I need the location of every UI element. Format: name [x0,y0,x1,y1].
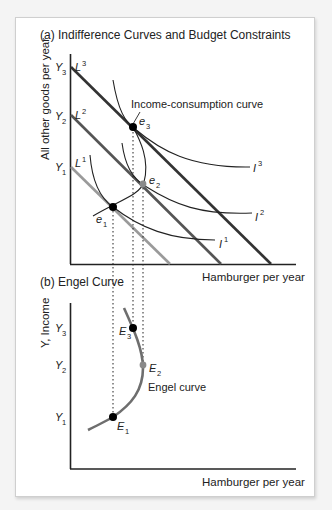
E1-label: E 1 [117,420,129,436]
panel-a-ylabel: All other goods per year [39,38,51,160]
panel-b-y1-label: Y 1 [55,411,66,427]
point-E1 [109,413,117,421]
l1-label: L 1 [75,155,86,169]
svg-text:e: e [139,115,145,127]
svg-text:2: 2 [82,107,86,116]
income-consumption-curve [93,127,146,216]
e2-label: e 2 [149,174,160,190]
point-e3 [129,123,137,131]
e1-label: e 1 [96,213,107,229]
panel-b-y3-label: Y 3 [55,322,66,338]
svg-text:2: 2 [156,181,160,190]
panel-b-ylabel: Y, Income [39,298,51,348]
svg-text:e: e [149,174,155,186]
svg-text:I: I [219,238,222,250]
panel-a-xlabel: Hamburger per year [202,271,305,283]
icc-label: Income-consumption curve [131,98,263,110]
panel-a-y3-label: Y 3 [55,61,66,77]
svg-text:E: E [117,420,125,432]
i2-label: I 2 [255,208,264,223]
svg-text:1: 1 [224,235,228,244]
svg-text:3: 3 [62,68,66,77]
svg-text:E: E [119,325,127,337]
e3-label: e 3 [139,115,150,131]
point-E2 [140,362,147,369]
svg-text:1: 1 [62,168,66,177]
svg-text:e: e [96,213,102,225]
svg-text:L: L [75,109,81,121]
svg-text:2: 2 [157,369,161,378]
svg-text:2: 2 [260,208,264,217]
svg-text:I: I [255,211,258,223]
svg-text:3: 3 [62,329,66,338]
point-e1 [109,203,117,211]
svg-text:E: E [149,362,157,374]
svg-text:1: 1 [103,220,107,229]
panel-a-y1-label: Y 1 [55,161,66,177]
svg-text:3: 3 [146,122,150,131]
svg-text:2: 2 [62,117,66,126]
panel-b-xlabel: Hamburger per year [202,476,305,488]
engel-curve-label: Engel curve [148,381,206,393]
point-e2 [140,181,147,188]
point-E3 [129,324,137,332]
indifference-curve-i2 [122,143,252,213]
svg-text:3: 3 [82,59,86,68]
i1-label: I 1 [219,235,228,250]
svg-text:3: 3 [127,332,131,341]
panel-b-title: (b) Engel Curve [40,275,124,289]
l3-label: L 3 [75,59,86,73]
svg-text:2: 2 [62,366,66,375]
panel-a-y2-label: Y 2 [55,110,66,126]
svg-text:I: I [253,162,256,174]
i3-label: I 3 [253,159,262,174]
budget-line-l3 [71,67,271,264]
panel-b-y2-label: Y 2 [55,359,66,375]
E2-label: E 2 [149,362,161,378]
economics-figure: (a) Indifference Curves and Budget Const… [0,0,332,510]
l2-label: L 2 [75,107,86,121]
svg-text:3: 3 [258,159,262,168]
panel-a-title: (a) Indifference Curves and Budget Const… [40,28,291,42]
svg-text:1: 1 [125,427,129,436]
svg-text:1: 1 [62,418,66,427]
svg-text:1: 1 [82,155,86,164]
svg-text:L: L [75,157,81,169]
svg-text:L: L [75,61,81,73]
